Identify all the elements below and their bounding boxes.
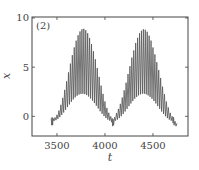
y-axis-label: x <box>0 72 13 79</box>
series-line-x-of-t <box>51 29 177 126</box>
x-axis-label: t <box>108 151 113 164</box>
y-tick-labels: 0510 <box>16 12 29 121</box>
x-tick-label: 4000 <box>92 140 117 151</box>
x-tick-labels: 350040004500 <box>44 140 165 151</box>
panel-label: (2) <box>36 20 50 31</box>
y-tick-label: 5 <box>23 62 29 73</box>
x-tick-label: 3500 <box>44 140 69 151</box>
line-chart: (2) 350040004500 0510 t x <box>0 0 199 170</box>
x-tick-label: 4500 <box>140 140 165 151</box>
y-tick-label: 10 <box>16 12 29 23</box>
y-tick-label: 0 <box>23 111 29 122</box>
